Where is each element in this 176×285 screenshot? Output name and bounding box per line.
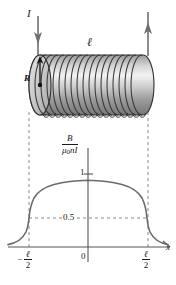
x-axis [8, 241, 170, 247]
y-tick-label-half: 0.5 [62, 213, 75, 222]
length-label: ℓ [87, 36, 92, 48]
x-tick-left-numerator: ℓ [24, 250, 32, 260]
current-arrow-right [144, 12, 152, 56]
radius-label: R [24, 74, 30, 83]
x-tick-right-denominator: 2 [142, 260, 150, 270]
solenoid-field-figure: I ℓ R B μ0nI 1 0.5 0 x − ℓ 2 ℓ 2 [0, 0, 176, 285]
x-tick-right-numerator: ℓ [142, 250, 150, 260]
origin-label: 0 [81, 252, 86, 261]
current-arrow-left [34, 16, 42, 56]
y-tick-label-one: 1 [80, 168, 85, 177]
y-axis-denominator: μ0nI [62, 145, 78, 156]
x-tick-positive-half-length: ℓ 2 [142, 250, 150, 271]
y-axis-nI: nI [70, 145, 78, 155]
y-axis-numerator: B [62, 134, 78, 145]
current-label: I [27, 8, 31, 19]
x-tick-left-denominator: 2 [24, 260, 32, 270]
x-tick-negative-sign: − [17, 255, 22, 264]
y-axis-label: B μ0nI [62, 134, 78, 156]
x-tick-negative-half-length: − ℓ 2 [24, 250, 32, 271]
x-axis-label: x [166, 243, 170, 252]
